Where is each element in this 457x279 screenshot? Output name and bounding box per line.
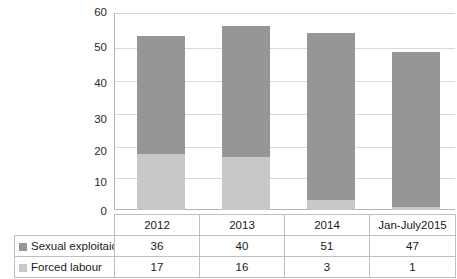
y-tick-label: 20 — [67, 146, 107, 158]
y-tick-label: 60 — [67, 7, 107, 19]
plot-area — [114, 13, 455, 210]
bar-segment-forced-labour[interactable] — [137, 154, 185, 210]
table-cell: 3 — [285, 257, 370, 278]
table-header-cell: 2014 — [285, 215, 370, 236]
table-row: Forced labour 17 16 3 1 — [15, 257, 456, 278]
legend-swatch-icon — [19, 264, 27, 272]
table-cell: 36 — [115, 236, 200, 257]
bar-segment-sexual-exploitation[interactable] — [307, 33, 355, 200]
legend-swatch-icon — [19, 243, 27, 251]
bar-segment-forced-labour[interactable] — [307, 200, 355, 210]
table-cell: 17 — [115, 257, 200, 278]
legend-label: Sexual exploitaion — [31, 240, 115, 252]
table-header-cell: Jan-July2015 — [370, 215, 456, 236]
table-cell: 1 — [370, 257, 456, 278]
table-cell: 47 — [370, 236, 456, 257]
y-tick-label: 40 — [67, 78, 107, 90]
bar-group-2012 — [137, 14, 185, 210]
bar-segment-sexual-exploitation[interactable] — [392, 52, 440, 207]
table-row: Sexual exploitaion 36 40 51 47 — [15, 236, 456, 257]
legend-label: Forced labour — [31, 261, 102, 273]
y-tick-label: 50 — [67, 42, 107, 54]
bar-stack — [137, 36, 185, 210]
bar-stack — [222, 26, 270, 210]
table-header-row: 2012 2013 2014 Jan-July2015 — [15, 215, 456, 236]
table-cell: 51 — [285, 236, 370, 257]
legend-item-forced-labour: Forced labour — [15, 257, 115, 278]
legend-item-sexual-exploitation: Sexual exploitaion — [15, 236, 115, 257]
y-axis: 60 50 40 30 20 10 0 — [63, 0, 107, 210]
table-corner-cell — [15, 215, 115, 236]
y-tick-label: 30 — [67, 114, 107, 126]
bar-segment-sexual-exploitation[interactable] — [137, 36, 185, 154]
data-table: 2012 2013 2014 Jan-July2015 Sexual explo… — [14, 214, 456, 278]
table-cell: 16 — [200, 257, 285, 278]
table-header-cell: 2013 — [200, 215, 285, 236]
bar-stack — [392, 52, 440, 210]
chart-screenshot: 60 50 40 30 20 10 0 — [0, 0, 457, 279]
table-cell: 40 — [200, 236, 285, 257]
bar-segment-forced-labour[interactable] — [222, 157, 270, 210]
bar-segment-sexual-exploitation[interactable] — [222, 26, 270, 157]
y-tick-label: 10 — [67, 177, 107, 189]
bar-group-2014 — [307, 14, 355, 210]
bar-group-jan-july2015 — [392, 14, 440, 210]
bar-stack — [307, 33, 355, 210]
bar-group-2013 — [222, 14, 270, 210]
bar-segment-forced-labour[interactable] — [392, 207, 440, 210]
table-header-cell: 2012 — [115, 215, 200, 236]
